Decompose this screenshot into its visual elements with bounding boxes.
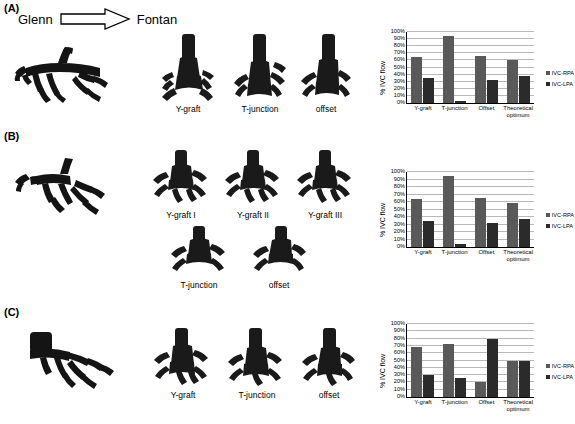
legend-swatch-icon xyxy=(546,375,550,379)
chart-x-tick-label: T-junction xyxy=(439,249,471,256)
chart-bar-group: Theoretical optimum xyxy=(502,324,534,397)
chart-y-tick-label: 0% xyxy=(397,244,405,250)
chart-bar xyxy=(411,347,422,397)
chart-y-tick-label: 50% xyxy=(394,65,405,71)
chart-y-tick-label: 100% xyxy=(391,321,405,327)
chart-bar xyxy=(507,60,518,103)
chart-y-tick-label: 10% xyxy=(394,93,405,99)
chart-legend: IVC-RPAIVC-LPA xyxy=(546,363,574,380)
model-label: offset xyxy=(298,104,354,114)
t-junction-model-c: T-junction xyxy=(226,328,288,388)
chart-y-tick-label: 10% xyxy=(394,237,405,243)
chart-bar xyxy=(455,101,466,103)
model-label: offset xyxy=(248,280,310,290)
glenn-model-b xyxy=(14,156,126,218)
chart-y-axis-label: % IVC flow xyxy=(379,61,386,95)
legend-label: IVC-LPA xyxy=(552,374,573,380)
chart-panel-a: % IVC flow0%10%20%30%40%50%60%70%80%90%1… xyxy=(384,30,574,126)
chart-bar-group: Theoretical optimum xyxy=(502,32,534,103)
chart-y-tick-label: 100% xyxy=(391,29,405,35)
panel-c: (C) xyxy=(0,304,575,424)
chart-bar xyxy=(519,76,530,103)
chart-panel-b: % IVC flow0%10%20%30%40%50%60%70%80%90%1… xyxy=(384,170,574,270)
legend-swatch-icon xyxy=(546,364,550,368)
fontan-label: Fontan xyxy=(137,12,177,27)
chart-plot-area: 0%10%20%30%40%50%60%70%80%90%100%Y-graft… xyxy=(406,32,534,104)
chart-legend-item: IVC-RPA xyxy=(546,212,574,218)
chart-plot-area: 0%10%20%30%40%50%60%70%80%90%100%Y-graft… xyxy=(406,172,534,248)
chart-bar-group: Y-graft xyxy=(407,172,439,247)
y-graft-vessel-icon xyxy=(222,150,284,208)
model-label: Y-graft xyxy=(152,390,214,400)
chart-y-tick-label: 30% xyxy=(394,372,405,378)
model-label: offset xyxy=(298,390,360,400)
chart-y-tick-label: 60% xyxy=(394,58,405,64)
chart-bar xyxy=(487,80,498,103)
glenn-label: Glenn xyxy=(18,12,53,27)
chart-y-tick-label: 30% xyxy=(394,222,405,228)
chart-bar xyxy=(443,344,454,397)
chart-y-tick-label: 20% xyxy=(394,86,405,92)
chart-y-tick-label: 80% xyxy=(394,43,405,49)
t-junction-model-b: T-junction xyxy=(168,226,230,278)
chart-bar-group: Offset xyxy=(471,324,503,397)
chart-y-axis-label: % IVC flow xyxy=(379,354,386,388)
chart-bar-group: T-junction xyxy=(439,32,471,103)
chart-y-tick-label: 60% xyxy=(394,199,405,205)
offset-model-a: offset xyxy=(298,34,354,102)
t-junction-vessel-icon xyxy=(232,34,288,102)
glenn-vessel-icon xyxy=(14,330,126,392)
chart-bar xyxy=(507,361,518,398)
chart-x-tick-label: Offset xyxy=(471,399,503,406)
y-graft-i-model: Y-graft I xyxy=(150,150,212,208)
chart-x-tick-label: Theoretical optimum xyxy=(502,249,534,263)
chart-y-tick-label: 100% xyxy=(391,169,405,175)
chart-bar-group: Y-graft xyxy=(407,32,439,103)
chart-bar xyxy=(519,361,530,398)
y-graft-model-c: Y-graft xyxy=(152,328,214,388)
chart-bar xyxy=(487,339,498,397)
chart-x-tick-label: Y-graft xyxy=(407,249,439,256)
chart-y-tick-label: 20% xyxy=(394,229,405,235)
chart-y-tick-label: 0% xyxy=(397,394,405,400)
model-label: T-junction xyxy=(232,104,288,114)
glenn-vessel-icon xyxy=(14,46,126,108)
chart-bar-group: Offset xyxy=(471,172,503,247)
chart-x-tick-label: Theoretical optimum xyxy=(502,105,534,119)
chart-bar xyxy=(443,176,454,247)
offset-vessel-icon xyxy=(248,226,310,278)
chart-bar xyxy=(423,221,434,247)
chart-x-tick-label: T-junction xyxy=(439,399,471,406)
chart-y-tick-label: 50% xyxy=(394,207,405,213)
panel-b: (B) xyxy=(0,128,575,304)
chart-bar xyxy=(475,382,486,397)
t-junction-vessel-icon xyxy=(168,226,230,278)
chart-y-tick-label: 90% xyxy=(394,177,405,183)
y-graft-vessel-icon xyxy=(150,150,212,208)
chart-bar xyxy=(411,57,422,103)
offset-model-b: offset xyxy=(248,226,310,278)
chart-x-tick-label: T-junction xyxy=(439,105,471,112)
legend-swatch-icon xyxy=(546,213,550,217)
legend-swatch-icon xyxy=(546,224,550,228)
panel-a-letter: (A) xyxy=(4,2,19,14)
chart-panel-c: % IVC flow0%10%20%30%40%50%60%70%80%90%1… xyxy=(384,322,574,420)
chart-bar xyxy=(423,78,434,103)
chart-x-tick-label: Offset xyxy=(471,105,503,112)
model-label: T-junction xyxy=(226,390,288,400)
chart-bar xyxy=(411,199,422,247)
chart-bar xyxy=(423,375,434,397)
chart-y-tick-label: 60% xyxy=(394,350,405,356)
chart-bar-group: T-junction xyxy=(439,324,471,397)
chart-x-tick-label: Y-graft xyxy=(407,105,439,112)
chart-y-tick-label: 70% xyxy=(394,51,405,57)
y-graft-vessel-icon xyxy=(294,150,356,208)
chart-legend-item: IVC-LPA xyxy=(546,223,574,229)
chart-y-tick-label: 80% xyxy=(394,184,405,190)
legend-swatch-icon xyxy=(546,71,550,75)
legend-label: IVC-LPA xyxy=(552,81,573,87)
chart-x-tick-label: Theoretical optimum xyxy=(502,399,534,413)
panel-a: (A) Glenn Fontan xyxy=(0,0,575,128)
offset-model-c: offset xyxy=(298,328,360,388)
glenn-model xyxy=(14,46,126,108)
